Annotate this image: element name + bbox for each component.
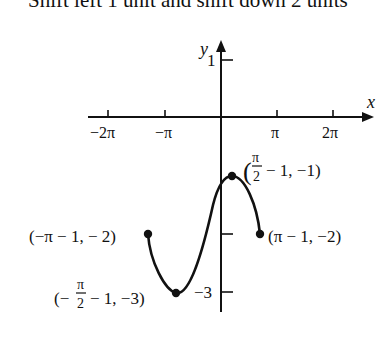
label-left-endpoint: (−π − 1, − 2) — [29, 227, 116, 246]
svg-text:π: π — [252, 150, 259, 165]
svg-text:(: ( — [243, 157, 252, 186]
point-maximum — [228, 172, 236, 180]
x-tick-neg2pi: −2π — [90, 124, 115, 141]
x-tick-2pi: 2π — [322, 124, 338, 141]
svg-text:π: π — [77, 277, 84, 292]
x-axis-label: x — [366, 92, 375, 112]
point-minimum — [172, 289, 180, 297]
svg-text:(−: (− — [54, 289, 69, 308]
svg-text:− 1, −3): − 1, −3) — [90, 289, 145, 308]
svg-text:2: 2 — [77, 296, 84, 311]
x-axis-arrow-icon — [362, 112, 374, 122]
label-right-endpoint: (π − 1, −2) — [268, 227, 341, 246]
label-maximum: ( π 2 − 1, −1) — [243, 150, 321, 186]
curve — [148, 176, 260, 293]
point-right-endpoint — [256, 230, 264, 238]
label-minimum: (− π 2 − 1, −3) — [54, 277, 145, 311]
svg-text:− 1, −1): − 1, −1) — [266, 161, 321, 180]
x-tick-negpi: −π — [155, 124, 172, 141]
svg-text:2: 2 — [253, 169, 260, 184]
x-tick-pi: π — [271, 124, 279, 141]
y-tick-1: 1 — [207, 51, 216, 70]
point-left-endpoint — [144, 230, 152, 238]
y-axis-arrow-icon — [216, 40, 226, 52]
y-tick-neg3: −3 — [194, 283, 212, 302]
graph: y x 1 −2π −π π 2π −3 (−π − 1, − 2) (π − … — [0, 0, 387, 337]
